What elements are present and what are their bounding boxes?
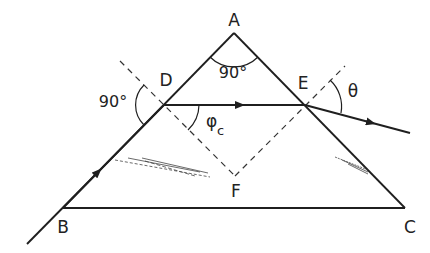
diagram-canvas: A B C D E F 90° 90° φ c θ (0, 0, 430, 253)
exit-arrow-icon (367, 122, 371, 123)
hatch-marks (115, 157, 368, 177)
exit-angle-label: θ (348, 81, 358, 101)
critical-angle-subscript: c (217, 123, 224, 138)
prism-side-AC (234, 33, 405, 208)
exit-angle-arc (330, 80, 342, 113)
point-label-B: B (57, 217, 69, 237)
critical-angle-label: φ (206, 111, 217, 131)
point-label-E: E (298, 73, 309, 93)
critical-angle-arc (188, 105, 199, 130)
prism-diagram: A B C D E F 90° 90° φ c θ (0, 0, 430, 253)
point-label-F: F (231, 181, 241, 201)
incidence-angle-arc (136, 85, 144, 125)
point-label-A: A (228, 10, 240, 30)
normal-at-E (235, 66, 345, 176)
point-label-D: D (159, 70, 172, 90)
apex-angle-label: 90° (219, 63, 247, 82)
point-label-C: C (404, 217, 416, 237)
incidence-angle-label: 90° (99, 92, 127, 111)
exit-ray (305, 105, 410, 133)
normal-at-D (120, 61, 235, 176)
